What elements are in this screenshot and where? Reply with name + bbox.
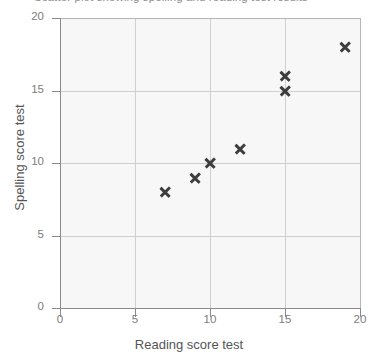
x-tick-label: 20	[340, 313, 378, 325]
data-point	[204, 157, 217, 170]
plot-frame-right	[360, 18, 361, 309]
data-point	[279, 84, 292, 97]
data-point	[189, 171, 202, 184]
y-axis-label: Spelling score test	[12, 53, 27, 263]
y-tick	[52, 18, 61, 19]
x-tick-label: 5	[115, 313, 155, 325]
data-point	[234, 142, 247, 155]
y-tick	[52, 163, 61, 164]
x-axis-label: Reading score test	[0, 337, 378, 352]
y-tick	[52, 236, 61, 237]
x-tick-label: 10	[190, 313, 230, 325]
plot-frame-top	[60, 18, 361, 19]
data-point	[159, 186, 172, 199]
gridline-horizontal	[60, 236, 360, 237]
x-tick-label: 15	[265, 313, 305, 325]
gridline-horizontal	[60, 91, 360, 92]
y-tick-label: 0	[0, 300, 44, 312]
y-tick	[52, 91, 61, 92]
chart-title: Scatter plot showing spelling and readin…	[34, 0, 308, 3]
y-tick-label: 20	[0, 10, 44, 22]
data-point	[279, 70, 292, 83]
data-point	[339, 41, 352, 54]
x-tick-label: 0	[40, 313, 80, 325]
scatter-chart: Scatter plot showing spelling and readin…	[0, 0, 378, 363]
